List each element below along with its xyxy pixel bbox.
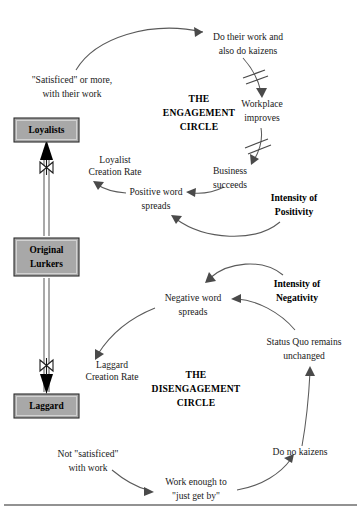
node-negative-word-spreads: Negative word spreads	[165, 292, 222, 317]
negative-line1: Negative word	[165, 292, 222, 303]
positive-line2: spreads	[142, 200, 171, 211]
loop-title-disengagement: THE DISENGAGEMENT CIRCLE	[152, 369, 241, 408]
not-satisficed-line1: Not "satisficed"	[58, 448, 119, 459]
business-line2: succeeds	[213, 179, 247, 190]
positive-line1: Positive word	[129, 186, 182, 197]
rate-laggard-creation: Laggard Creation Rate	[85, 359, 138, 382]
stock-original-label: Original	[30, 245, 64, 255]
laggard-inflow-arrow	[40, 374, 53, 394]
stock-lurkers-label: Lurkers	[30, 259, 63, 269]
laggard-rate-line2: Creation Rate	[85, 371, 138, 382]
stock-loyalists[interactable]: Loyalists	[14, 118, 79, 142]
node-intensity-of-negativity: Intensity of Negativity	[274, 278, 321, 303]
intensity-positivity-line1: Intensity of	[271, 192, 318, 203]
loyalist-rate-line2: Creation Rate	[88, 166, 141, 177]
intensity-negativity-line2: Negativity	[276, 292, 318, 303]
disengagement-title-line2: DISENGAGEMENT	[152, 383, 241, 394]
link-do-work-to-workplace	[243, 58, 268, 98]
link-work-just-get-by-to-do-no-kaizens	[237, 454, 294, 490]
disengagement-title-line1: THE	[186, 369, 207, 380]
node-business-succeeds: Business succeeds	[213, 165, 247, 190]
engagement-title-line3: CIRCLE	[180, 121, 219, 132]
link-satisficed-to-do-work	[76, 27, 203, 70]
node-intensity-of-positivity: Intensity of Positivity	[271, 192, 318, 217]
do-no-kaizens-label: Do no kaizens	[273, 446, 328, 457]
status-quo-line1: Status Quo remains	[266, 336, 341, 347]
loyalist-rate-line1: Loyalist	[99, 154, 131, 165]
rate-loyalist-creation: Loyalist Creation Rate	[88, 154, 141, 177]
loyalist-creation-valve[interactable]	[40, 160, 53, 175]
status-quo-line2: unchanged	[283, 350, 325, 361]
intensity-negativity-line1: Intensity of	[274, 278, 321, 289]
node-work-just-get-by: Work enough to "just get by"	[165, 476, 227, 501]
satisficed-line1: "Satisficed" or more,	[32, 74, 113, 85]
node-satisficed-or-more: "Satisficed" or more, with their work	[32, 74, 113, 99]
node-workplace-improves: Workplace improves	[241, 98, 282, 123]
stock-laggard[interactable]: Laggard	[14, 394, 79, 418]
do-work-line1: Do their work and	[213, 31, 283, 42]
laggard-creation-valve[interactable]	[40, 358, 53, 375]
link-negative-word-to-laggard-rate	[95, 308, 155, 360]
workplace-line2: improves	[244, 112, 280, 123]
link-intensity-positivity-to-positive-word	[171, 215, 280, 236]
stock-loyalists-label: Loyalists	[29, 125, 65, 135]
node-positive-word-spreads: Positive word spreads	[129, 186, 182, 211]
diagram-canvas: Loyalists Original Lurkers Laggard Loyal…	[0, 0, 361, 514]
causal-loop-diagram: Loyalists Original Lurkers Laggard Loyal…	[0, 0, 361, 514]
intensity-positivity-line2: Positivity	[275, 206, 314, 217]
loop-title-engagement: THE ENGAGEMENT CIRCLE	[163, 93, 236, 132]
link-workplace-to-business	[245, 128, 271, 165]
satisficed-line2: with their work	[42, 88, 101, 99]
node-do-work-and-kaizens: Do their work and also do kaizens	[213, 31, 283, 56]
link-positive-word-to-loyalist-rate	[93, 181, 126, 193]
node-not-satisficed: Not "satisficed" with work	[58, 448, 119, 473]
laggard-rate-line1: Laggard	[96, 359, 128, 370]
stock-laggard-label: Laggard	[29, 401, 64, 411]
node-status-quo-unchanged: Status Quo remains unchanged	[266, 336, 341, 361]
stock-original-lurkers[interactable]: Original Lurkers	[14, 238, 79, 276]
link-intensity-negativity-to-negative-word	[205, 264, 283, 283]
work-by-line1: Work enough to	[165, 476, 227, 487]
engagement-title-line1: THE	[189, 93, 210, 104]
negative-line2: spreads	[179, 306, 208, 317]
workplace-line1: Workplace	[241, 98, 282, 109]
engagement-title-line2: ENGAGEMENT	[163, 107, 236, 118]
not-satisficed-line2: with work	[68, 462, 107, 473]
link-not-satisficed-to-work-just-get-by	[112, 470, 154, 496]
do-work-line2: also do kaizens	[219, 45, 278, 56]
work-by-line2: "just get by"	[172, 490, 220, 501]
link-do-no-kaizens-to-status-quo	[302, 366, 315, 446]
loyalist-inflow-arrow	[40, 140, 53, 160]
business-line1: Business	[213, 165, 247, 176]
disengagement-title-line3: CIRCLE	[177, 397, 216, 408]
node-do-no-kaizens: Do no kaizens	[273, 446, 328, 457]
